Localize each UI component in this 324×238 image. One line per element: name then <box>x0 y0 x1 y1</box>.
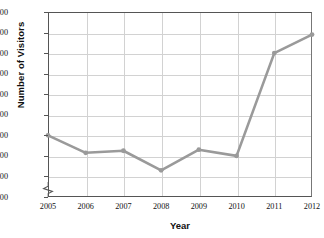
x-axis-tick-label: 2010 <box>217 202 257 212</box>
data-point-marker <box>83 150 88 155</box>
y-axis-tick-mark <box>44 12 48 13</box>
y-axis-title: Number of Visitors <box>14 0 28 130</box>
x-axis-tick-label: 2007 <box>103 202 143 212</box>
y-axis-tick-mark <box>44 94 48 95</box>
data-point-marker <box>272 51 277 56</box>
y-axis-tick-label: 32,000 <box>0 172 8 181</box>
visitors-markers <box>46 32 315 172</box>
y-axis-tick-label: 38,000 <box>0 110 8 119</box>
y-axis-tick-label: 34,000 <box>0 151 8 160</box>
data-point-marker <box>121 148 126 153</box>
y-axis-tick-label: 36,000 <box>0 131 8 140</box>
y-axis-tick-mark <box>44 176 48 177</box>
x-axis-title: Year <box>48 220 312 231</box>
y-axis-tick-label: 48,000 <box>0 8 8 17</box>
data-point-marker <box>196 147 201 152</box>
x-axis-tick-label: 2008 <box>141 202 181 212</box>
y-axis-tick-label: 42,000 <box>0 69 8 78</box>
data-point-marker <box>159 168 164 173</box>
y-axis-tick-label: 30,000 <box>0 193 8 202</box>
y-axis-tick-label: 46,000 <box>0 28 8 37</box>
visitors-line <box>48 35 312 171</box>
y-axis-tick-mark <box>44 53 48 54</box>
data-point-marker <box>234 153 239 158</box>
y-axis-tick-label: 40,000 <box>0 90 8 99</box>
y-axis-tick-mark <box>44 115 48 116</box>
y-axis-tick-mark <box>44 197 48 198</box>
x-axis-tick-label: 2005 <box>28 202 68 212</box>
y-axis-tick-mark <box>44 33 48 34</box>
x-axis-tick-label: 2012 <box>292 202 324 212</box>
x-axis-tick-label: 2011 <box>254 202 294 212</box>
y-axis-tick-mark <box>44 74 48 75</box>
data-series-layer <box>48 12 312 197</box>
y-axis-tick-mark <box>44 135 48 136</box>
y-axis-tick-label: 44,000 <box>0 49 8 58</box>
x-axis-tick-label: 2006 <box>66 202 106 212</box>
y-axis-tick-mark <box>44 156 48 157</box>
x-axis-tick-label: 2009 <box>179 202 219 212</box>
line-chart: Number of Visitors 48,00046,00044,00042,… <box>0 0 324 238</box>
data-point-marker <box>310 32 315 37</box>
axis-break-icon <box>42 182 55 197</box>
